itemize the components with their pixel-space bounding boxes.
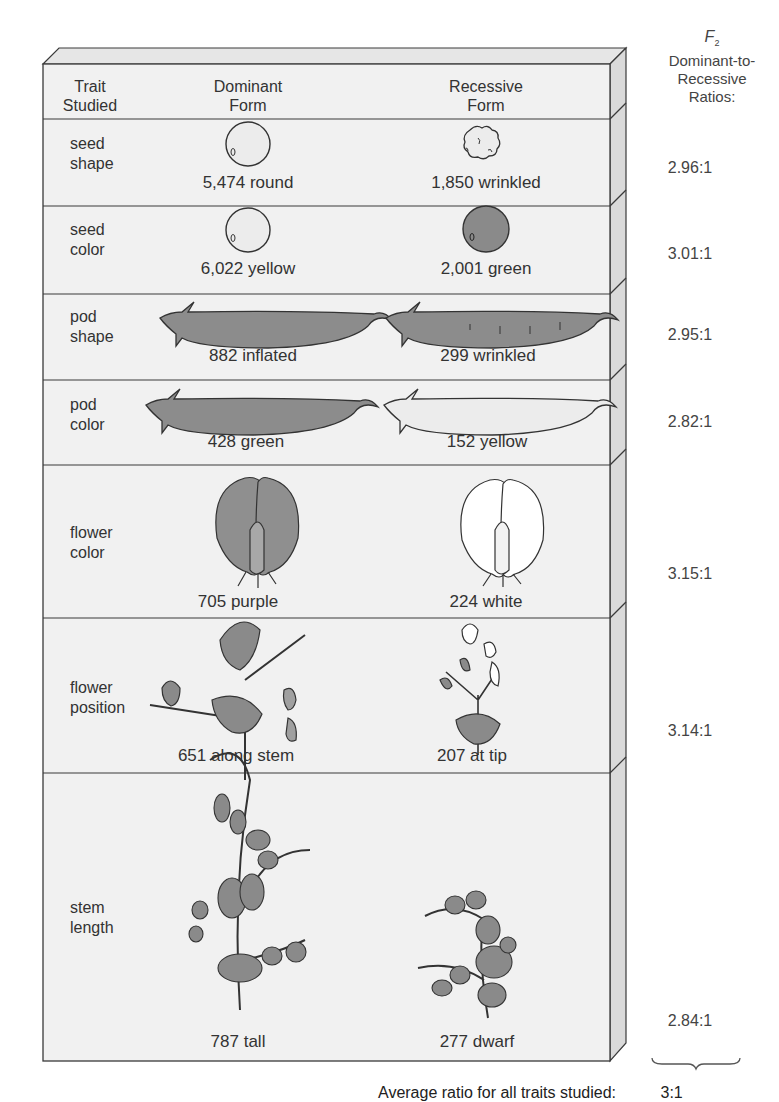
trait-line1: pod xyxy=(70,395,105,415)
brace-icon xyxy=(652,1058,740,1069)
trait-line2: position xyxy=(70,698,125,718)
round-seed-icon xyxy=(226,122,270,166)
dominant-count: 882 inflated xyxy=(209,346,297,366)
trait-label: flowerposition xyxy=(70,678,125,718)
header-trait-line2: Studied xyxy=(63,96,117,115)
recessive-count: 152 yellow xyxy=(447,432,527,452)
ratio-value: 3.14:1 xyxy=(668,722,712,740)
header-trait-studied: Trait Studied xyxy=(63,77,117,115)
trait-line1: flower xyxy=(70,678,125,698)
trait-label: podcolor xyxy=(70,395,105,435)
average-ratio-value: 3:1 xyxy=(661,1084,683,1101)
trait-line2: shape xyxy=(70,154,114,174)
header-dominant-line2: Form xyxy=(214,96,282,115)
recessive-count: 2,001 green xyxy=(441,259,532,279)
ratio-value: 2.96:1 xyxy=(668,159,712,177)
trait-line2: length xyxy=(70,918,114,938)
dominant-count: 6,022 yellow xyxy=(201,259,296,279)
recessive-count: 277 dwarf xyxy=(440,1032,515,1052)
f2-label: F2 xyxy=(669,28,756,52)
trait-line2: color xyxy=(70,415,105,435)
dominant-count: 651 along stem xyxy=(178,746,294,766)
ratio-value: 3.15:1 xyxy=(668,565,712,583)
recessive-count: 224 white xyxy=(450,592,523,612)
trait-label: stemlength xyxy=(70,898,114,938)
trait-line1: flower xyxy=(70,523,113,543)
trait-line2: shape xyxy=(70,327,114,347)
ratio-value: 3.01:1 xyxy=(668,245,712,263)
ratio-value: 2.82:1 xyxy=(668,413,712,431)
trait-label: seedshape xyxy=(70,134,114,174)
ratio-header-line2: Recessive xyxy=(669,70,756,88)
trait-line1: seed xyxy=(70,134,114,154)
ratio-value: 2.84:1 xyxy=(668,1012,712,1030)
dominant-count: 787 tall xyxy=(211,1032,266,1052)
trait-label: seedcolor xyxy=(70,220,105,260)
green-seed-icon xyxy=(463,206,509,252)
trait-line1: stem xyxy=(70,898,114,918)
recessive-count: 1,850 wrinkled xyxy=(431,173,541,193)
trait-line2: color xyxy=(70,240,105,260)
header-recessive-line2: Form xyxy=(449,96,523,115)
average-ratio-caption: Average ratio for all traits studied: 3:… xyxy=(378,1084,683,1102)
f2-symbol: F xyxy=(705,28,715,45)
f2-subscript: 2 xyxy=(714,38,719,48)
ratio-value: 2.95:1 xyxy=(668,326,712,344)
caption-text: Average ratio for all traits studied: xyxy=(378,1084,616,1101)
ratio-header-line3: Ratios: xyxy=(669,88,756,106)
trait-label: flowercolor xyxy=(70,523,113,563)
wrinkled-seed-icon xyxy=(464,126,500,158)
trait-label: podshape xyxy=(70,307,114,347)
header-ratio-column: F2 Dominant-to- Recessive Ratios: xyxy=(669,28,756,106)
dominant-count: 428 green xyxy=(208,432,285,452)
trait-line2: color xyxy=(70,543,113,563)
header-recessive-form: Recessive Form xyxy=(449,77,523,115)
header-recessive-line1: Recessive xyxy=(449,77,523,96)
trait-line1: pod xyxy=(70,307,114,327)
ratio-header-line1: Dominant-to- xyxy=(669,52,756,70)
recessive-count: 207 at tip xyxy=(437,746,507,766)
dominant-count: 5,474 round xyxy=(203,173,294,193)
header-trait-line1: Trait xyxy=(63,77,117,96)
header-dominant-line1: Dominant xyxy=(214,77,282,96)
yellow-seed-icon xyxy=(226,208,270,252)
trait-line1: seed xyxy=(70,220,105,240)
dominant-count: 705 purple xyxy=(198,592,278,612)
recessive-count: 299 wrinkled xyxy=(440,346,535,366)
header-dominant-form: Dominant Form xyxy=(214,77,282,115)
